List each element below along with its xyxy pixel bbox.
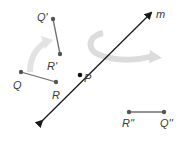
point-p — [78, 73, 83, 78]
label-q-prime: Q' — [37, 12, 48, 23]
label-r: R — [52, 90, 60, 101]
label-p: P — [84, 73, 91, 84]
line-m — [42, 13, 151, 121]
label-q: Q — [13, 80, 22, 91]
label-r-prime: R' — [47, 61, 57, 72]
diagram-canvas — [0, 0, 183, 150]
label-q-double-prime: Q'' — [160, 118, 173, 129]
label-m: m — [156, 9, 165, 20]
segment-q-prime-r-prime — [51, 17, 62, 56]
label-r-double-prime: R'' — [122, 118, 134, 129]
segment-r-double-prime-q-double-prime — [127, 110, 166, 114]
